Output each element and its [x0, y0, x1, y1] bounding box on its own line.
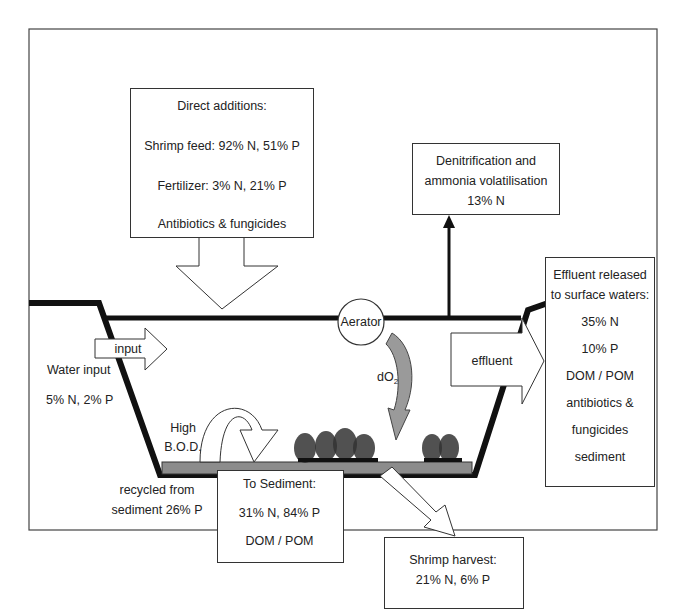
shrimp-harvest-heading: Shrimp harvest:: [384, 554, 522, 567]
pond-outline: [29, 303, 548, 475]
water-input-label: Water input: [47, 364, 110, 377]
water-input-values: 5% N, 2% P: [46, 394, 113, 407]
effluent-sediment: sediment: [546, 450, 654, 464]
direct-additions-box: Direct additions: Shrimp feed: 92% N, 51…: [130, 88, 314, 238]
effluent-line1: Effluent released: [546, 268, 654, 282]
do2-main: dO: [377, 370, 394, 384]
direct-additions-heading: Direct additions:: [131, 99, 313, 113]
denitrification-value: 13% N: [413, 194, 559, 208]
denitrification-box: Denitrification and ammonia volatilisati…: [412, 143, 560, 215]
to-sediment-heading: To Sediment:: [217, 478, 342, 491]
shrimp-feed-value: Shrimp feed: 92% N, 51% P: [131, 139, 313, 153]
denitrification-line2: ammonia volatilisation: [413, 174, 559, 188]
high-bod-line2: B.O.D.: [158, 441, 208, 454]
to-sediment-values: 31% N, 84% P: [217, 507, 342, 520]
effluent-released-box: Effluent released to surface waters: 35%…: [545, 257, 655, 487]
input-arrow-label: input: [108, 343, 148, 356]
effluent-n-value: 35% N: [546, 315, 654, 329]
direct-additions-arrow-icon: [176, 236, 278, 309]
high-bod-line1: High: [160, 422, 206, 435]
chemicals-value: Antibiotics & fungicides: [131, 217, 313, 231]
effluent-organic: DOM / POM: [546, 369, 654, 383]
recycled-line2: sediment 26% P: [108, 504, 206, 517]
do2-arrow-icon: [386, 333, 412, 440]
shrimp-harvest-values: 21% N, 6% P: [384, 574, 522, 587]
up-arrow-head-icon: [443, 215, 455, 228]
effluent-chem1: antibiotics &: [546, 396, 654, 410]
effluent-p-value: 10% P: [546, 342, 654, 356]
recycled-line1: recycled from: [112, 484, 202, 497]
shrimp-cluster-icon: [294, 428, 462, 463]
effluent-arrow-label: effluent: [462, 355, 522, 368]
fertilizer-value: Fertilizer: 3% N, 21% P: [131, 179, 313, 193]
to-sediment-organic: DOM / POM: [217, 535, 342, 548]
aerator-label: Aerator: [336, 316, 386, 329]
effluent-chem2: fungicides: [546, 423, 654, 437]
effluent-line2: to surface waters:: [546, 288, 654, 302]
do2-label: dO2: [377, 371, 398, 386]
bod-recycle-arrow-icon: [200, 408, 278, 462]
denitrification-line1: Denitrification and: [413, 154, 559, 168]
do2-subscript: 2: [394, 377, 398, 386]
